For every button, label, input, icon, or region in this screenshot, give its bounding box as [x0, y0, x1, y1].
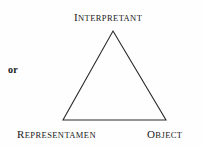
- vertex-label-interpretant: INTERPRETANT: [74, 7, 142, 25]
- vertex-label-object: OBJECT: [147, 124, 182, 142]
- object-rest: BJECT: [155, 130, 182, 140]
- triangle-outline: [63, 31, 166, 120]
- interpretant-rest: NTERPRETANT: [78, 13, 142, 23]
- representamen-rest: EPRESENTAMEN: [25, 130, 96, 140]
- representamen-initial: R: [17, 128, 25, 140]
- side-note-or: or: [8, 64, 18, 75]
- vertex-label-representamen: REPRESENTAMEN: [17, 124, 96, 142]
- semiotic-triangle-figure: INTERPRETANT REPRESENTAMEN OBJECT or: [0, 0, 202, 149]
